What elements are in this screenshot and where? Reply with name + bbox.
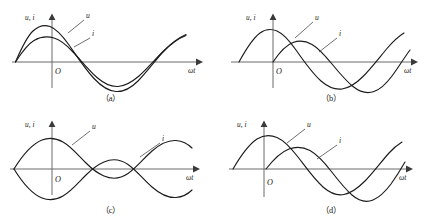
curve-u-d [233, 136, 402, 195]
panel-caption-c: （c） [0, 203, 221, 215]
y-axis-label-c: u, i [25, 120, 34, 129]
x-axis-arrow-icon-b [411, 59, 418, 66]
y-axis-label-d: u, i [237, 120, 246, 129]
curve-label-i-c: i [162, 134, 164, 143]
leader-i-d [317, 145, 337, 159]
panel-c: u, i ωt O u i （c） [0, 109, 221, 219]
waveform-figure-grid: u, i ωt O u i （a） u, i ωt O u i （b） [0, 0, 441, 219]
y-axis-label-b: u, i [246, 13, 255, 22]
origin-label-b: O [276, 67, 282, 76]
origin-label-a: O [55, 67, 61, 76]
origin-label-d: O [267, 178, 273, 187]
origin-label-c: O [55, 175, 61, 184]
leader-c-i [140, 143, 160, 157]
curve-label-i-a: i [92, 29, 94, 38]
curve-u-b [239, 30, 404, 90]
curve-label-i-b: i [339, 29, 341, 38]
panel-b: u, i ωt O u i （b） [221, 0, 441, 109]
curve-c-i [14, 160, 192, 200]
panel-caption-b: （b） [221, 91, 441, 103]
y-axis-label-a: u, i [25, 13, 34, 22]
y-axis-arrow-icon-d [261, 121, 268, 128]
x-axis-label-b: ωt [404, 66, 412, 75]
panel-d: u, i ωt O u i （d） [221, 109, 441, 219]
curve-label-u-c: u [92, 122, 96, 131]
curve-label-i-d: i [339, 136, 341, 145]
leader-i-a [74, 38, 90, 47]
leader-u-d [287, 129, 305, 143]
x-axis-arrow-icon-d [406, 166, 413, 173]
panel-caption-a: （a） [0, 91, 221, 103]
panel-a: u, i ωt O u i （a） [0, 0, 221, 109]
y-axis-arrow-icon-a [49, 14, 56, 21]
curve-label-u-d: u [307, 120, 311, 129]
curve-c-u [14, 139, 192, 179]
curve-label-u-b: u [315, 13, 319, 22]
curve-i-d [266, 147, 405, 201]
x-axis-label-d: ωt [399, 173, 407, 182]
y-axis-arrow-icon-b [270, 14, 277, 21]
leader-u-a [68, 20, 84, 33]
curve-label-u-a: u [86, 11, 90, 20]
x-axis-label-c: ωt [186, 173, 194, 182]
y-axis-arrow-icon-c [49, 121, 56, 128]
x-axis-arrow-icon-a [196, 59, 203, 66]
curve-i-a [16, 35, 187, 87]
leader-u-b [295, 22, 313, 38]
leader-c-u [72, 131, 90, 145]
leader-i-b [319, 38, 337, 52]
x-axis-arrow-icon-c [193, 166, 200, 173]
curve-u-a [16, 26, 187, 92]
curve-i-b [273, 41, 410, 92]
x-axis-label-a: ωt [188, 66, 196, 75]
panel-caption-d: （d） [221, 203, 441, 215]
